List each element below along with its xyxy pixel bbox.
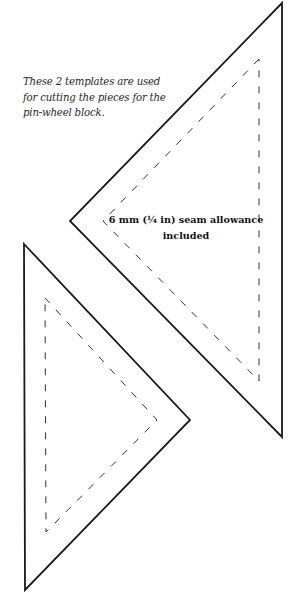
seam-label-line2: included (96, 228, 276, 244)
seam-label-line1: 6 mm (¼ in) seam allowance (96, 212, 276, 228)
bottom-template-seam-line (45, 298, 157, 532)
caption-line: for cutting the pieces for the (23, 90, 163, 106)
bottom-template-cut-line (24, 244, 190, 590)
seam-allowance-label: 6 mm (¼ in) seam allowance included (96, 212, 276, 244)
caption-line: pin-wheel block. (23, 105, 163, 121)
template-caption: These 2 templates are used for cutting t… (23, 74, 163, 121)
caption-line: These 2 templates are used (23, 74, 163, 90)
